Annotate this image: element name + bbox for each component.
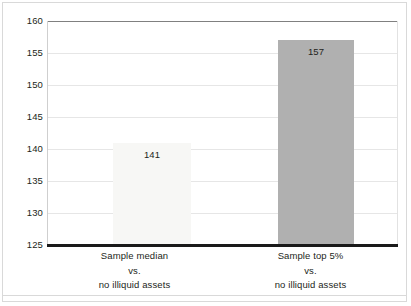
y-tick-160: 160 [3, 16, 43, 26]
category-label-line-3: no illiquid assets [223, 278, 398, 293]
bar-sample-top-5[interactable]: 157 [278, 40, 354, 245]
category-label-sample-median: Sample median vs. no illiquid assets [47, 249, 222, 293]
bottom-divider [3, 295, 406, 296]
y-tick-140: 140 [3, 144, 43, 154]
y-tick-150: 150 [3, 80, 43, 90]
plot-area: 141 157 [47, 21, 398, 245]
y-axis-tick-labels: 160 155 150 145 140 135 130 125 [0, 0, 43, 306]
y-tick-145: 145 [3, 112, 43, 122]
category-label-line-2: vs. [223, 264, 398, 279]
y-tick-130: 130 [3, 208, 43, 218]
x-axis-category-labels: Sample median vs. no illiquid assets Sam… [47, 249, 398, 296]
y-tick-125: 125 [3, 240, 43, 250]
y-tick-155: 155 [3, 48, 43, 58]
category-label-line-1: Sample median [47, 249, 222, 264]
bar-value-label: 141 [113, 150, 191, 160]
bar-value-label: 157 [278, 47, 354, 57]
category-label-line-3: no illiquid assets [47, 278, 222, 293]
category-label-sample-top-5: Sample top 5% vs. no illiquid assets [223, 249, 398, 293]
gridline-160 [48, 21, 397, 22]
y-tick-135: 135 [3, 176, 43, 186]
bar-chart-figure: 160 155 150 145 140 135 130 125 141 157 … [0, 0, 411, 306]
bar-sample-median[interactable]: 141 [113, 143, 191, 245]
category-label-line-1: Sample top 5% [223, 249, 398, 264]
category-label-line-2: vs. [47, 264, 222, 279]
x-axis-baseline [47, 244, 398, 247]
